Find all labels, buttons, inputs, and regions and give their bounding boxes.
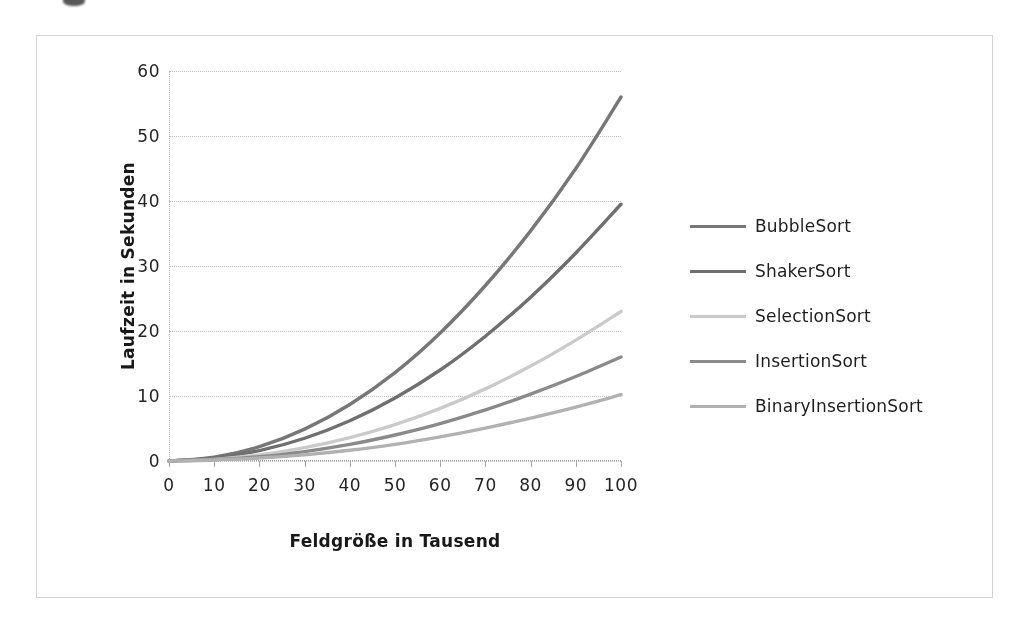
x-axis-tick-mark — [440, 461, 441, 467]
chart-frame: Laufzeit in Sekunden 0102030405060 01020… — [36, 35, 993, 598]
x-axis-tick-label: 100 — [604, 475, 638, 495]
x-axis-tick-mark — [576, 461, 577, 467]
plot-area: 0102030405060 0102030405060708090100 — [169, 71, 621, 461]
scan-artifact — [63, 0, 85, 6]
legend-swatch-icon — [690, 225, 746, 228]
series-line-shakersort — [169, 204, 621, 461]
y-axis-tick-label: 30 — [137, 256, 160, 276]
y-axis-title-wrapper: Laufzeit in Sekunden — [103, 71, 133, 461]
legend-label: SelectionSort — [755, 306, 871, 326]
x-axis-tick-label: 80 — [519, 475, 542, 495]
x-axis-tick-label: 60 — [429, 475, 452, 495]
x-axis-tick-mark — [214, 461, 215, 467]
x-axis-tick-mark — [531, 461, 532, 467]
x-axis-tick-mark — [305, 461, 306, 467]
legend-label: InsertionSort — [755, 351, 867, 371]
y-axis-tick-label: 50 — [137, 126, 160, 146]
x-axis-tick-label: 20 — [248, 475, 271, 495]
x-axis-tick-label: 10 — [203, 475, 226, 495]
series-line-bubblesort — [169, 97, 621, 461]
y-axis-title: Laufzeit in Sekunden — [118, 136, 138, 396]
legend-label: BubbleSort — [755, 216, 851, 236]
x-axis-title: Feldgröße in Tausend — [169, 531, 621, 551]
legend-item-binaryinsertionsort[interactable]: BinaryInsertionSort — [690, 396, 923, 416]
y-axis-tick-label: 0 — [149, 451, 160, 471]
x-axis-tick-mark — [621, 461, 622, 467]
legend-swatch-icon — [690, 405, 746, 408]
x-axis-tick-label: 40 — [338, 475, 361, 495]
chart-legend: BubbleSortShakerSortSelectionSortInserti… — [690, 216, 923, 416]
legend-item-selectionsort[interactable]: SelectionSort — [690, 306, 923, 326]
x-axis-tick-label: 90 — [564, 475, 587, 495]
legend-item-shakersort[interactable]: ShakerSort — [690, 261, 923, 281]
legend-swatch-icon — [690, 360, 746, 363]
legend-item-bubblesort[interactable]: BubbleSort — [690, 216, 923, 236]
y-axis-tick-label: 10 — [137, 386, 160, 406]
legend-swatch-icon — [690, 315, 746, 318]
y-axis-tick-label: 60 — [137, 61, 160, 81]
legend-label: ShakerSort — [755, 261, 851, 281]
x-axis-tick-label: 50 — [384, 475, 407, 495]
legend-item-insertionsort[interactable]: InsertionSort — [690, 351, 923, 371]
x-axis-tick-label: 30 — [293, 475, 316, 495]
series-lines — [169, 71, 621, 461]
x-axis-tick-mark — [350, 461, 351, 467]
y-axis-tick-label: 40 — [137, 191, 160, 211]
x-axis-tick-mark — [485, 461, 486, 467]
y-axis-tick-label: 20 — [137, 321, 160, 341]
x-axis-tick-label: 0 — [163, 475, 174, 495]
x-axis-tick-mark — [259, 461, 260, 467]
x-axis-tick-label: 70 — [474, 475, 497, 495]
x-axis-tick-mark — [395, 461, 396, 467]
legend-swatch-icon — [690, 270, 746, 273]
legend-label: BinaryInsertionSort — [755, 396, 923, 416]
